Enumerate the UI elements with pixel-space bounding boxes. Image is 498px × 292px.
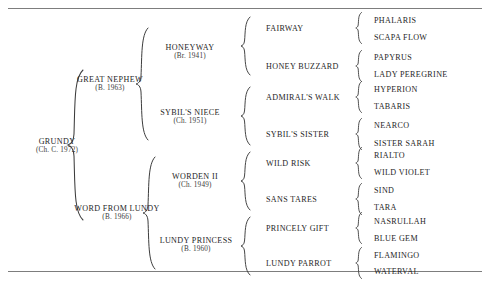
node-detail: (Br. 1941) <box>166 53 215 61</box>
leaf-great-great-grandparent-9: WILD VIOLET <box>374 168 430 177</box>
leaf-great-great-grandparent-1: SCAPA FLOW <box>374 33 427 42</box>
leaf-great-great-grandparent-4: HYPERION <box>374 85 418 94</box>
brace-grandparent-1 <box>239 85 253 147</box>
leaf-great-great-grandparent-12: NASRULLAH <box>374 217 426 226</box>
node-detail: (B. 1966) <box>74 214 159 222</box>
leaf-great-great-grandparent-6: NEARCO <box>374 121 409 130</box>
pedigree-chart: GRUNDY (Ch. C. 1972) GREAT NEPHEW (B. 19… <box>0 0 498 292</box>
leaf-great-great-grandparent-5: TABARIS <box>374 102 410 111</box>
leaf-great-great-grandparent-3: LADY PEREGRINE <box>374 70 448 79</box>
node-detail: (B. 1960) <box>160 246 233 254</box>
brace-great-grandparent-2 <box>354 80 364 114</box>
brace-grandparent-0 <box>239 15 253 77</box>
node-name: HONEYWAY <box>166 43 215 52</box>
top-rule <box>8 8 482 9</box>
leaf-great-grandparent-5: SANS TARES <box>266 195 317 204</box>
node-name: LUNDY PRINCESS <box>160 236 233 245</box>
node-name: GRUNDY <box>36 137 78 146</box>
brace-grandparent-3 <box>239 215 253 277</box>
leaf-great-grandparent-4: WILD RISK <box>266 159 311 168</box>
node-detail: (Ch. C. 1972) <box>36 147 78 155</box>
leaf-great-great-grandparent-14: FLAMINGO <box>374 251 420 260</box>
node-grandparent-0: HONEYWAY (Br. 1941) <box>166 43 215 60</box>
leaf-great-great-grandparent-0: PHALARIS <box>374 16 416 25</box>
brace-great-grandparent-1 <box>354 49 364 83</box>
leaf-great-great-grandparent-11: TARA <box>374 203 397 212</box>
leaf-great-great-grandparent-2: PAPYRUS <box>374 53 412 62</box>
node-name: SYBIL'S NIECE <box>160 108 220 117</box>
brace-great-grandparent-4 <box>354 146 364 180</box>
brace-great-grandparent-0 <box>354 11 364 45</box>
leaf-great-great-grandparent-10: SIND <box>374 186 394 195</box>
brace-great-grandparent-5 <box>354 182 364 216</box>
node-parent-0: GREAT NEPHEW (B. 1963) <box>77 75 143 92</box>
node-grandparent-2: WORDEN II (Ch. 1949) <box>172 172 218 189</box>
brace-great-grandparent-7 <box>354 246 364 280</box>
node-parent-1: WORD FROM LUNDY (B. 1966) <box>74 204 159 221</box>
leaf-great-grandparent-7: LUNDY PARROT <box>266 259 331 268</box>
brace-grandparent-2 <box>239 150 253 212</box>
leaf-great-grandparent-1: HONEY BUZZARD <box>266 62 339 71</box>
node-detail: (Ch. 1949) <box>172 182 218 190</box>
leaf-great-grandparent-6: PRINCELY GIFT <box>266 224 329 233</box>
node-grandparent-1: SYBIL'S NIECE (Ch. 1951) <box>160 108 220 125</box>
leaf-great-grandparent-3: SYBIL'S SISTER <box>266 130 329 139</box>
brace-great-grandparent-6 <box>354 211 364 245</box>
node-detail: (B. 1963) <box>77 85 143 93</box>
leaf-great-great-grandparent-8: RIALTO <box>374 151 405 160</box>
leaf-great-grandparent-2: ADMIRAL'S WALK <box>266 93 340 102</box>
node-name: GREAT NEPHEW <box>77 75 143 84</box>
node-name: WORDEN II <box>172 172 218 181</box>
leaf-great-great-grandparent-13: BLUE GEM <box>374 234 418 243</box>
node-grandparent-3: LUNDY PRINCESS (B. 1960) <box>160 236 233 253</box>
leaf-great-great-grandparent-7: SISTER SARAH <box>374 139 435 148</box>
leaf-great-great-grandparent-15: WATERVAL <box>374 267 419 276</box>
node-name: WORD FROM LUNDY <box>74 204 159 213</box>
node-detail: (Ch. 1951) <box>160 118 220 126</box>
leaf-great-grandparent-0: FAIRWAY <box>266 24 304 33</box>
brace-great-grandparent-3 <box>354 117 364 151</box>
node-subject: GRUNDY (Ch. C. 1972) <box>36 137 78 154</box>
